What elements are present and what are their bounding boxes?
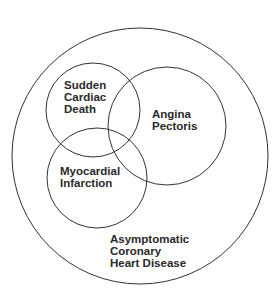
- label-angina-pectoris: Angina Pectoris: [152, 108, 197, 132]
- label-myocardial-infarction: Myocardial Infarction: [60, 165, 120, 189]
- label-sudden-cardiac-death: Sudden Cardiac Death: [64, 79, 106, 115]
- label-asymptomatic-chd: Asymptomatic Coronary Heart Disease: [110, 233, 189, 269]
